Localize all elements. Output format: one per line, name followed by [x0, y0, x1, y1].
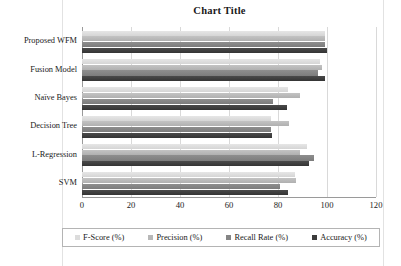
- bar: [82, 144, 307, 149]
- bar: [82, 87, 288, 92]
- bar: [82, 127, 271, 132]
- bar-track: [82, 190, 327, 195]
- bar-track: [82, 116, 327, 121]
- bar: [82, 65, 322, 70]
- bar: [82, 121, 289, 126]
- chart-title: Chart Title: [0, 5, 401, 16]
- chart-legend: F-Score (%)Precision (%)Recall Rate (%)A…: [62, 228, 380, 247]
- plot-area: [82, 27, 327, 197]
- bar-track: [82, 184, 327, 189]
- bar-track: [82, 87, 327, 92]
- legend-label: F-Score (%): [83, 233, 124, 242]
- bar: [82, 93, 300, 98]
- bar: [82, 99, 273, 104]
- bar-group: [82, 112, 327, 140]
- bar: [82, 155, 314, 160]
- legend-label: Recall Rate (%): [234, 233, 287, 242]
- bar-track: [82, 155, 327, 160]
- x-tick-label-40: 40: [165, 200, 195, 210]
- bar-track: [82, 42, 327, 47]
- x-axis-line: [82, 197, 376, 198]
- bar: [82, 133, 272, 138]
- bar-track: [82, 93, 327, 98]
- bar-track: [82, 127, 327, 132]
- bar: [82, 178, 296, 183]
- bar-track: [82, 150, 327, 155]
- bar: [82, 190, 288, 195]
- x-tick-label-20: 20: [116, 200, 146, 210]
- bar: [82, 184, 280, 189]
- x-tick-label-0: 0: [67, 200, 97, 210]
- category-label: Naïve Bayes: [34, 94, 77, 102]
- bar: [82, 105, 287, 110]
- legend-swatch-icon: [75, 235, 80, 240]
- bar: [82, 150, 300, 155]
- bar: [82, 42, 325, 47]
- bar-track: [82, 144, 327, 149]
- legend-swatch-icon: [312, 235, 317, 240]
- bar-track: [82, 70, 327, 75]
- bar-track: [82, 59, 327, 64]
- bar-group: [82, 27, 327, 55]
- bar-track: [82, 31, 327, 36]
- legend-item[interactable]: F-Score (%): [75, 233, 124, 242]
- bar-group: [82, 169, 327, 197]
- bar-track: [82, 36, 327, 41]
- x-tick-label-100: 100: [312, 200, 342, 210]
- legend-label: Accuracy (%): [320, 233, 367, 242]
- bar: [82, 48, 327, 53]
- legend-item[interactable]: Recall Rate (%): [226, 233, 287, 242]
- category-label: Proposed WFM: [24, 37, 77, 45]
- bar-track: [82, 172, 327, 177]
- legend-swatch-icon: [148, 235, 153, 240]
- category-label: L-Regression: [32, 151, 77, 159]
- category-label: Fusion Model: [30, 66, 77, 74]
- gridline-100: [327, 27, 328, 197]
- bar-track: [82, 99, 327, 104]
- x-tick-label-120: 120: [361, 200, 391, 210]
- bar: [82, 116, 271, 121]
- bar-group: [82, 84, 327, 112]
- legend-swatch-icon: [226, 235, 231, 240]
- category-label: Decision Tree: [30, 122, 77, 130]
- bar-group: [82, 55, 327, 83]
- bar: [82, 172, 295, 177]
- bar: [82, 161, 309, 166]
- bar-track: [82, 161, 327, 166]
- x-tick-label-60: 60: [214, 200, 244, 210]
- bar-track: [82, 105, 327, 110]
- bar: [82, 36, 325, 41]
- bar-chart: Chart Title 020406080100120 Proposed WFM…: [0, 0, 401, 266]
- bar-track: [82, 76, 327, 81]
- bar: [82, 31, 325, 36]
- x-tick-label-80: 80: [263, 200, 293, 210]
- bar-group: [82, 140, 327, 168]
- bar-track: [82, 48, 327, 53]
- legend-label: Precision (%): [156, 233, 202, 242]
- legend-item[interactable]: Accuracy (%): [312, 233, 367, 242]
- bar-track: [82, 65, 327, 70]
- bar: [82, 76, 325, 81]
- bar: [82, 70, 318, 75]
- bar: [82, 59, 320, 64]
- category-label: SVM: [59, 179, 77, 187]
- legend-item[interactable]: Precision (%): [148, 233, 202, 242]
- bar-track: [82, 121, 327, 126]
- bar-track: [82, 178, 327, 183]
- bar-track: [82, 133, 327, 138]
- gridline-120: [376, 27, 377, 197]
